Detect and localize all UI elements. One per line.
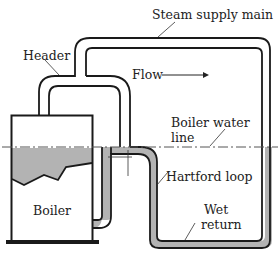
- label-header: Header: [23, 48, 70, 63]
- label-water-line-1: Boiler water: [171, 115, 250, 130]
- label-flow: Flow: [132, 67, 163, 82]
- boiler-base: [6, 240, 99, 244]
- label-return: return: [201, 217, 241, 232]
- label-steam-main: Steam supply main: [152, 7, 273, 22]
- leader-lines: [45, 22, 225, 240]
- flow-arrowhead: [203, 72, 209, 78]
- hartford-loop-diagram: Steam supply main Header Flow Boiler wat…: [0, 0, 280, 254]
- label-boiler: Boiler: [33, 203, 71, 218]
- label-wet: Wet: [204, 202, 228, 217]
- hartford-loop-water: [93, 147, 272, 248]
- label-hartford: Hartford loop: [166, 169, 253, 184]
- boiler-water: [12, 148, 92, 185]
- label-water-line-2: line: [171, 130, 194, 145]
